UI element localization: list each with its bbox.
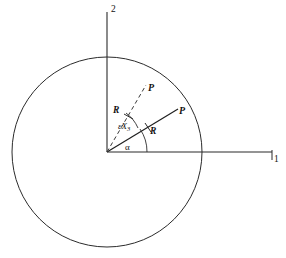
rotation-angle-subscript: 3 <box>127 125 130 132</box>
rotation-angle-label: εX3 <box>118 122 130 132</box>
point-p-prime-label: P <box>148 83 154 93</box>
axis-1-label: 1 <box>274 155 279 165</box>
radius-label-solid: R <box>150 127 156 137</box>
axis-2-label: 2 <box>111 5 116 15</box>
point-p-label: P <box>179 106 185 116</box>
geometry-figure: 2 1 P P R R εX3 α <box>0 0 286 258</box>
alpha-angle-label: α <box>125 143 130 152</box>
radius-label-dashed: R <box>113 106 119 116</box>
figure-canvas <box>0 0 286 258</box>
alpha-angle-arc <box>140 129 147 152</box>
